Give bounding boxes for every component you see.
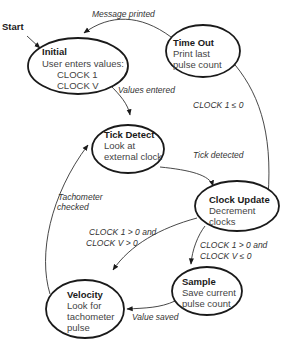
edge-sample-to-velocity <box>127 301 175 309</box>
state-clockupdate-title: Clock Update <box>209 194 270 205</box>
state-initial-title: Initial <box>42 46 67 57</box>
edge-clockupdate-to-timeout <box>230 59 269 197</box>
state-tickdetect-title: Tick Detect <box>104 129 155 140</box>
label-tick-detected: Tick detected <box>193 150 244 160</box>
state-velocity: Velocity Look for tachometer pulse <box>46 280 124 338</box>
edge-velocity-to-tickdetect <box>46 145 88 294</box>
state-velocity-line1: Look for <box>67 300 101 311</box>
state-velocity-title: Velocity <box>67 289 104 300</box>
label-value-saved: Value saved <box>132 312 179 322</box>
state-initial-line1: User enters values: <box>42 58 124 69</box>
state-initial-line2: CLOCK 1 <box>57 69 98 80</box>
state-tick-detect: Tick Detect Look at external clock <box>92 125 164 173</box>
label-message-printed: Message printed <box>92 9 155 19</box>
label-tachometer-line2: checked <box>57 202 89 212</box>
label-sample-cond-line2: CLOCK V ≤ 0 <box>200 251 252 261</box>
state-tickdetect-line2: external clock <box>104 151 162 162</box>
label-velocity-cond-line1: CLOCK 1 > 0 and <box>89 227 157 237</box>
state-time-out: Time Out Print last pulse count <box>166 25 240 77</box>
state-diagram: Start Message printed Values entered Tic… <box>0 0 283 343</box>
state-clockupdate-line1: Decrement <box>209 205 256 216</box>
label-clock1-le-0: CLOCK 1 ≤ 0 <box>193 100 244 110</box>
state-tickdetect-line1: Look at <box>104 140 136 151</box>
start-label: Start <box>2 21 24 32</box>
edge-timeout-to-initial <box>84 19 171 37</box>
state-initial: Initial User enters values: CLOCK 1 CLOC… <box>28 38 128 94</box>
label-values-entered: Values entered <box>118 85 175 95</box>
label-tachometer-line1: Tachometer <box>58 192 104 202</box>
state-clock-update: Clock Update Decrement clocks <box>195 181 279 231</box>
state-initial-line3: CLOCK V <box>57 80 99 91</box>
state-sample-line1: Save current <box>182 287 236 298</box>
label-sample-cond-line1: CLOCK 1 > 0 and <box>200 240 268 250</box>
state-sample: Sample Save current pulse count <box>172 267 242 315</box>
state-velocity-line2: tachometer <box>67 311 115 322</box>
edge-start-to-initial <box>27 36 40 48</box>
state-sample-title: Sample <box>182 276 216 287</box>
state-clockupdate-line2: clocks <box>209 216 236 227</box>
edge-tickdetect-to-clockupdate <box>160 167 213 186</box>
state-timeout-line2: pulse count <box>173 59 222 70</box>
label-velocity-cond-line2: CLOCK V > 0 <box>86 238 138 248</box>
state-timeout-title: Time Out <box>173 37 215 48</box>
state-timeout-line1: Print last <box>173 48 210 59</box>
state-sample-line2: pulse count <box>182 298 231 309</box>
state-velocity-line3: pulse <box>67 322 90 333</box>
